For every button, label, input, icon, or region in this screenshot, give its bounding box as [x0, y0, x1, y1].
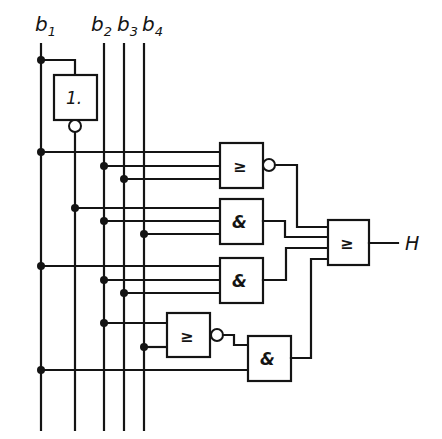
junction-dot — [71, 204, 79, 212]
junction-dot — [120, 289, 128, 297]
junction-dot — [100, 162, 108, 170]
wire-b1-to-inverter — [41, 60, 75, 75]
junction-dot — [120, 175, 128, 183]
junction-dot — [37, 366, 45, 374]
output-label-h: H — [405, 232, 419, 254]
junction-dot — [100, 319, 108, 327]
gate-nor-1-symbol: ≥ — [233, 157, 246, 176]
gate-and-3-symbol: & — [232, 271, 247, 291]
wire-g3-out — [263, 248, 328, 280]
junction-dot — [37, 56, 45, 64]
junction-dot — [37, 148, 45, 156]
junction-dot — [37, 262, 45, 270]
junction-dot — [140, 230, 148, 238]
input-label-b3: b3 — [117, 12, 138, 39]
wire-g5-out — [291, 259, 328, 358]
junction-dot — [100, 276, 108, 284]
gate-and-2-symbol: & — [232, 212, 247, 232]
junction-dot — [100, 217, 108, 225]
wire-g4-out — [223, 335, 248, 345]
logic-circuit-diagram: b1 b2 b3 b4 1. ≥ & & ≥ — [0, 0, 442, 439]
input-label-b1: b1 — [35, 12, 56, 39]
inverter-bubble-icon — [69, 120, 81, 132]
wire-g1-out — [275, 165, 328, 227]
input-label-b2: b2 — [91, 12, 112, 39]
junction-dot — [140, 343, 148, 351]
gate-or-output-symbol: ≥ — [340, 234, 353, 253]
gate-nor-4-symbol: ≥ — [180, 327, 193, 346]
wire-g2-out — [263, 221, 328, 237]
gate-nor-1-bubble-icon — [263, 159, 275, 171]
gate-nor-4-bubble-icon — [211, 329, 223, 341]
gate-and-5-symbol: & — [260, 349, 275, 369]
inverter-symbol: 1. — [66, 88, 82, 108]
input-label-b4: b4 — [142, 12, 163, 39]
